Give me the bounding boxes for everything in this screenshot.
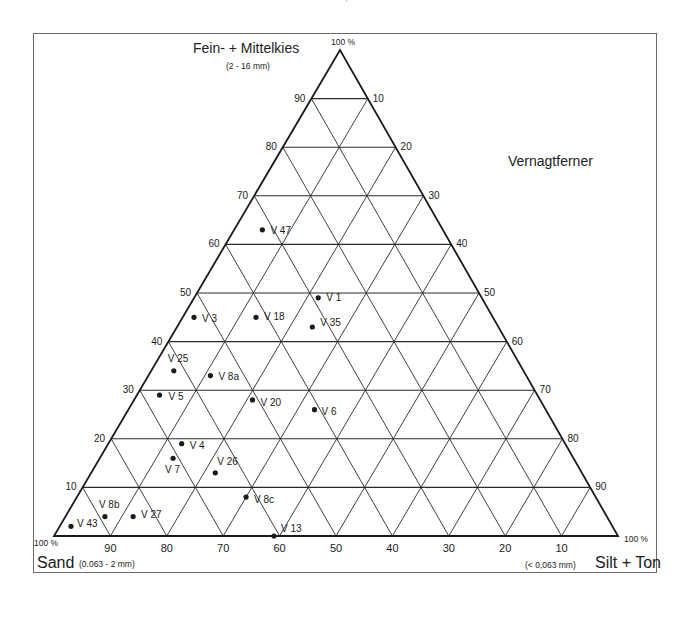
tick-label: 70: [237, 190, 249, 201]
point-marker-icon: [271, 533, 276, 538]
tick-label: 30: [123, 384, 135, 395]
tick-label: 50: [484, 287, 496, 298]
point-label: V 8b: [99, 499, 120, 510]
data-point: V 7: [165, 456, 180, 476]
data-point: V 26: [213, 456, 239, 476]
tick-label: 80: [266, 141, 278, 152]
point-marker-icon: [68, 524, 73, 529]
tick-label: 40: [386, 542, 398, 554]
tick-label: 80: [161, 542, 173, 554]
tick-label: 30: [428, 190, 440, 201]
point-marker-icon: [191, 315, 196, 320]
data-point: V 8b: [99, 499, 120, 520]
tick-label: 50: [180, 287, 192, 298]
grid-line-silt: [223, 196, 423, 536]
right-axis-title: Silt + Ton: [595, 555, 661, 571]
point-marker-icon: [316, 295, 321, 300]
point-label: V 4: [190, 440, 205, 451]
point-label: V 1: [326, 292, 341, 303]
right-corner-label: 100 %: [624, 535, 648, 544]
tick-label: 90: [595, 481, 607, 492]
point-marker-icon: [250, 397, 255, 402]
tick-label: 90: [294, 93, 306, 104]
point-label: V 20: [261, 397, 282, 408]
left-corner-label: 100 %: [34, 539, 58, 548]
tick-label: 40: [151, 336, 163, 347]
tick-label: 40: [456, 238, 468, 249]
tick-label: 50: [330, 542, 342, 554]
point-label: V 13: [281, 523, 302, 534]
point-label: V 6: [321, 406, 336, 417]
tick-label: 70: [217, 542, 229, 554]
tick-label: 80: [567, 433, 579, 444]
point-label: V 5: [169, 391, 184, 402]
tick-label: 20: [94, 433, 106, 444]
point-label: V 25: [168, 353, 189, 364]
data-point: V 25: [168, 353, 189, 374]
point-marker-icon: [179, 441, 184, 446]
point-marker-icon: [170, 456, 175, 461]
point-marker-icon: [171, 368, 176, 373]
top-corner-label: 100 %: [331, 38, 355, 47]
point-marker-icon: [102, 514, 107, 519]
tick-label: 10: [555, 542, 567, 554]
data-point: V 47: [260, 225, 292, 236]
tick-label: 10: [65, 481, 77, 492]
point-label: V 43: [77, 518, 98, 529]
tick-label: 90: [104, 542, 116, 554]
point-label: V 7: [165, 464, 180, 475]
ternary-plot: 1020304050607080901020304050607080909080…: [0, 0, 690, 617]
tick-label: 10: [373, 93, 385, 104]
data-point: V 4: [179, 440, 205, 451]
data-point: V 5: [157, 391, 184, 402]
point-marker-icon: [310, 324, 315, 329]
tick-label: 60: [512, 336, 524, 347]
point-label: V 3: [202, 313, 217, 324]
right-axis-range: (< 0,063 mm): [525, 561, 576, 570]
data-point: V 43: [68, 518, 98, 529]
point-marker-icon: [312, 407, 317, 412]
tick-label: 20: [499, 542, 511, 554]
point-marker-icon: [253, 315, 258, 320]
tick-label: 70: [540, 384, 552, 395]
point-marker-icon: [243, 495, 248, 500]
point-marker-icon: [213, 470, 218, 475]
chart-title: Vernagtferner: [508, 154, 593, 168]
data-point: V 3: [191, 313, 217, 324]
data-point: V 20: [250, 397, 282, 408]
tick-label: 20: [401, 141, 413, 152]
sample-points: V 47V 1V 35V 18V 3V 25V 8aV 5V 20V 6V 4V…: [68, 225, 341, 539]
point-label: V 27: [141, 509, 162, 520]
point-marker-icon: [260, 227, 265, 232]
data-point: V 6: [312, 406, 337, 417]
top-axis-title: Fein- + Mittelkies: [193, 41, 299, 55]
data-point: V 18: [253, 311, 285, 322]
point-label: V 8c: [254, 494, 274, 505]
point-label: V 8a: [218, 371, 239, 382]
data-point: V 35: [310, 317, 342, 330]
left-axis-range: (0.063 - 2 mm): [79, 560, 135, 569]
point-label: V 18: [264, 311, 285, 322]
grid-line-silt: [562, 487, 591, 536]
point-marker-icon: [131, 514, 136, 519]
tick-label: 60: [273, 542, 285, 554]
left-axis-title: Sand: [37, 555, 74, 571]
top-axis-range: (2 - 16 mm): [226, 62, 270, 71]
tick-label: 60: [208, 238, 220, 249]
point-marker-icon: [208, 373, 213, 378]
grid-line-silt: [449, 390, 535, 536]
point-label: V 47: [270, 225, 291, 236]
tick-label: 30: [443, 542, 455, 554]
data-point: V 27: [131, 509, 163, 520]
grid-line-sand: [254, 196, 449, 536]
data-point: V 8a: [208, 371, 240, 382]
point-label: V 26: [217, 456, 238, 467]
point-label: V 35: [320, 317, 341, 328]
point-marker-icon: [157, 392, 162, 397]
data-point: V 8c: [243, 494, 274, 505]
grid-line-silt: [336, 293, 479, 536]
